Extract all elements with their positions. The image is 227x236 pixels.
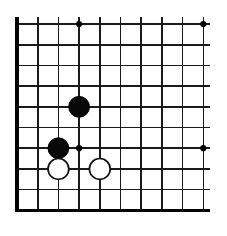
grid-lines bbox=[16, 17, 211, 212]
star-point-top-left bbox=[76, 21, 82, 27]
board-svg bbox=[0, 0, 227, 236]
stone-black-1 bbox=[69, 96, 90, 117]
star-point-center-left bbox=[76, 145, 82, 151]
stone-white-2 bbox=[89, 159, 110, 180]
star-point-top-right bbox=[200, 21, 206, 27]
star-point-center-right bbox=[200, 145, 206, 151]
stone-black-2 bbox=[48, 138, 69, 159]
go-board-diagram bbox=[0, 0, 227, 236]
board-surface bbox=[0, 0, 227, 236]
stone-white-1 bbox=[48, 159, 69, 180]
